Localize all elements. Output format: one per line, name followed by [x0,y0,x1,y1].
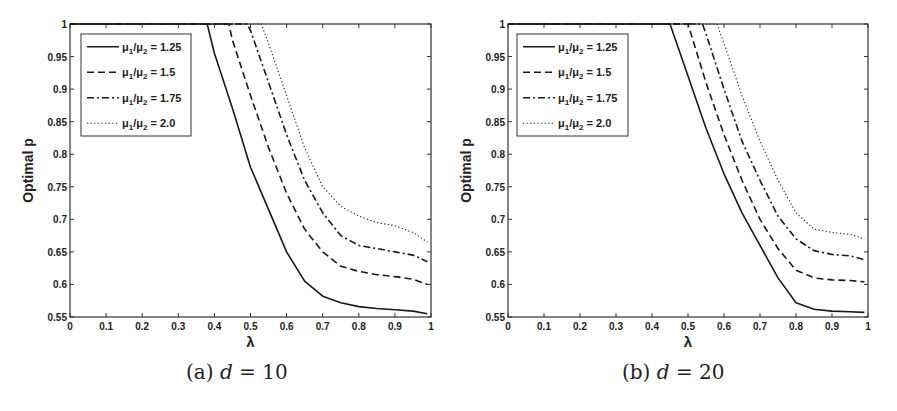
x-tick-label: 0.9 [825,321,839,332]
x-tick-label: 0.7 [753,321,767,332]
chart-b-svg: 00.10.20.30.40.50.60.70.80.910.550.60.65… [0,0,897,411]
x-tick-label: 0.6 [717,321,731,332]
y-tick-label: 0.9 [491,84,505,95]
x-tick-label: 0.1 [537,321,551,332]
x-tick-label: 0 [505,321,511,332]
y-tick-label: 0.95 [486,52,506,63]
y-tick-label: 0.55 [486,312,506,323]
chart-panel-b: 00.10.20.30.40.50.60.70.80.910.550.60.65… [0,0,448,411]
x-tick-label: 0.3 [609,321,623,332]
caption-b-eq: = 20 [676,360,725,384]
y-tick-label: 0.8 [491,149,505,160]
x-tick-label: 0.2 [573,321,587,332]
caption-b-prefix: (b) [622,360,650,384]
y-tick-label: 0.85 [486,117,506,128]
y-tick-label: 0.7 [491,214,505,225]
y-axis-label: Optimal p [458,138,474,203]
x-tick-label: 0.4 [645,321,659,332]
caption-b: (b) d = 20 [622,360,725,384]
caption-b-var: d [657,360,670,384]
x-tick-label: 0.8 [789,321,803,332]
y-tick-label: 0.65 [486,247,506,258]
x-tick-label: 0.5 [681,321,695,332]
y-tick-label: 0.6 [491,279,505,290]
y-tick-label: 0.75 [486,182,506,193]
x-axis-label: λ [684,333,693,350]
x-tick-label: 1 [865,321,871,332]
y-tick-label: 1 [499,19,505,30]
